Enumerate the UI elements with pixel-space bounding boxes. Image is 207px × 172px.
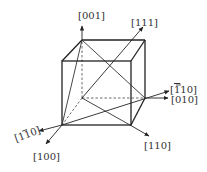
- label-100: [100]: [33, 151, 60, 162]
- cube-svg: [001] [111] [110] [010] [110] [110] [100…: [0, 0, 207, 172]
- arrow-bar110: [62, 91, 169, 125]
- label-1bar10: [110]: [13, 124, 42, 144]
- label-111: [111]: [131, 17, 158, 28]
- arrow-1bar10: [39, 125, 62, 131]
- face-diagonal-left: [62, 40, 82, 125]
- arrow-110: [130, 125, 149, 136]
- front-face: [62, 61, 131, 125]
- crystal-cube-diagram: [001] [111] [110] [010] [110] [110] [100…: [0, 0, 207, 172]
- label-010: [010]: [171, 94, 198, 105]
- edge-top-left-depth: [62, 40, 82, 61]
- edge-top-right-depth: [131, 40, 145, 61]
- direction-arrows: [39, 26, 169, 144]
- label-1bar10-group: [110]: [13, 124, 42, 144]
- floor-diagonal: [82, 98, 130, 125]
- body-diagonal-back: [82, 40, 145, 98]
- label-001: [001]: [78, 10, 105, 21]
- label-110: [110]: [144, 140, 171, 151]
- arrow-100: [46, 125, 62, 144]
